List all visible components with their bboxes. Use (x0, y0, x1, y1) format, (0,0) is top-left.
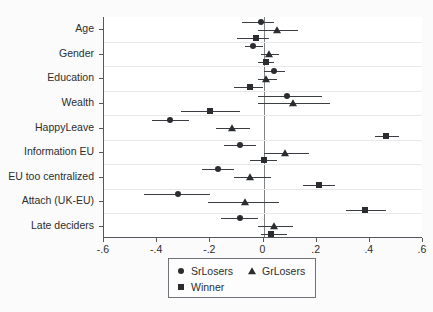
y-axis-labels: AgeGenderEducationWealthHappyLeaveInform… (0, 17, 99, 238)
legend-entry-grlosers: GrLosers (247, 265, 305, 277)
data-point-winner (383, 133, 389, 139)
x-axis-tick (156, 238, 157, 242)
x-axis-tick (103, 238, 104, 242)
gridline (104, 164, 422, 165)
y-axis-tick (99, 177, 104, 178)
data-point-srlosers (237, 215, 243, 221)
data-point-grlosers (273, 26, 281, 33)
y-axis-tick (99, 128, 104, 129)
data-point-srlosers (271, 68, 277, 74)
x-axis-tick (369, 238, 370, 242)
x-axis-tick-label: .4 (364, 243, 373, 255)
x-axis-tick (316, 238, 317, 242)
y-axis-label-late-deciders: Late deciders (0, 220, 99, 231)
x-axis-tick-label: -.2 (203, 243, 215, 255)
y-axis-tick (99, 152, 104, 153)
y-axis-label-education: Education (0, 72, 99, 83)
x-axis-tick (422, 238, 423, 242)
data-point-srlosers (175, 191, 181, 197)
gridline (104, 189, 422, 190)
legend-label-grlosers: GrLosers (262, 265, 305, 277)
data-point-grlosers (228, 124, 236, 131)
gridline (104, 91, 422, 92)
x-axis-tick-label: 0 (260, 243, 266, 255)
y-axis-label-attach-uk-eu: Attach (UK-EU) (0, 195, 99, 206)
y-axis-label-eu-too-centralized: EU too centralized (0, 171, 99, 182)
gridline (104, 66, 422, 67)
data-point-grlosers (289, 100, 297, 107)
data-point-grlosers (281, 149, 289, 156)
data-point-winner (316, 182, 322, 188)
data-point-grlosers (262, 75, 270, 82)
data-point-winner (268, 231, 274, 237)
y-axis-label-information-eu: Information EU (0, 146, 99, 157)
data-point-srlosers (284, 93, 290, 99)
square-marker-icon (176, 282, 186, 292)
legend-entry-srlosers: SrLosers (176, 265, 233, 277)
legend-label-winner: Winner (191, 281, 224, 293)
x-axis-tick-label: -.6 (97, 243, 109, 255)
gridline (104, 42, 422, 43)
y-axis-tick (99, 226, 104, 227)
data-point-grlosers (241, 198, 249, 205)
legend: SrLosers GrLosers Winner (168, 258, 316, 298)
data-point-srlosers (237, 142, 243, 148)
gridline (104, 115, 422, 116)
data-point-winner (261, 157, 267, 163)
data-point-srlosers (167, 117, 173, 123)
gridline (104, 213, 422, 214)
coefficient-plot: AgeGenderEducationWealthHappyLeaveInform… (0, 0, 433, 312)
x-axis-tick (209, 238, 210, 242)
data-point-srlosers (250, 43, 256, 49)
legend-label-srlosers: SrLosers (191, 265, 233, 277)
data-point-grlosers (265, 50, 273, 57)
data-point-srlosers (258, 19, 264, 25)
triangle-marker-icon (247, 266, 257, 276)
data-point-winner (247, 84, 253, 90)
data-point-grlosers (246, 173, 254, 180)
data-point-srlosers (215, 166, 221, 172)
x-axis-tick-label: .2 (311, 243, 320, 255)
y-axis-label-wealth: Wealth (0, 97, 99, 108)
plot-frame (103, 17, 422, 238)
x-axis-tick-label: -.4 (150, 243, 162, 255)
circle-marker-icon (176, 266, 186, 276)
y-axis-label-gender: Gender (0, 48, 99, 59)
legend-entry-winner: Winner (176, 281, 224, 293)
x-axis-tick-label: .6 (418, 243, 427, 255)
plot-area (104, 17, 422, 237)
x-axis: -.6-.4-.20.2.4.6 (103, 238, 422, 260)
legend-row-2: Winner (176, 279, 308, 295)
y-axis-label-happyleave: HappyLeave (0, 122, 99, 133)
x-axis-tick (263, 238, 264, 242)
data-point-grlosers (270, 222, 278, 229)
y-axis-tick (99, 201, 104, 202)
data-point-winner (253, 35, 259, 41)
y-axis-tick (99, 54, 104, 55)
data-point-winner (263, 59, 269, 65)
gridline (104, 140, 422, 141)
y-axis-tick (99, 29, 104, 30)
y-axis-tick (99, 103, 104, 104)
legend-row-1: SrLosers GrLosers (176, 263, 308, 279)
data-point-winner (207, 108, 213, 114)
data-point-winner (362, 207, 368, 213)
y-axis-tick (99, 78, 104, 79)
y-axis-label-age: Age (0, 23, 99, 34)
